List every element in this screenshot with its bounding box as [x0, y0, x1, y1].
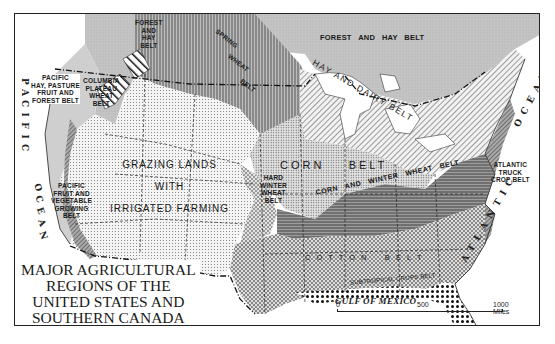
- label-line: FRUIT AND: [51, 190, 92, 198]
- label-pacific-ocean: P A C I F I C: [19, 76, 29, 153]
- ocean-letter: I: [19, 132, 30, 142]
- label-cotton-belt: C O T T O N B E L T: [305, 254, 423, 262]
- title-line: REGIONS OF THE: [21, 278, 196, 294]
- label-forest-hay-west: FOREST AND HAY BELT: [135, 19, 163, 49]
- label-grazing-lands: GRAZING LANDS WITH IRRIGATED FARMING: [110, 154, 229, 220]
- label-line: BELT: [83, 100, 120, 108]
- title-line: SOUTHERN CANADA: [21, 310, 196, 326]
- label-line: FOREST BELT: [31, 97, 80, 105]
- label-line: BELT: [51, 212, 92, 220]
- ocean-letter: F: [19, 121, 30, 131]
- label-line: GRAZING LANDS: [110, 154, 229, 176]
- label-line: WINTER: [260, 182, 287, 190]
- scale-tick: [502, 309, 503, 312]
- scale-label-500: 500: [417, 301, 429, 308]
- label-line: WHEAT: [260, 189, 287, 197]
- label-line: VEGETABLE: [51, 197, 92, 205]
- label-line: HARD: [260, 174, 287, 182]
- label-pacific-hay: PACIFIC HAY, PASTURE FRUIT AND FOREST BE…: [31, 74, 80, 104]
- ocean-letter: P: [19, 77, 30, 87]
- label-columbia-plateau: COLUMBIA PLATEAU WHEAT BELT: [83, 77, 120, 107]
- title-line: MAJOR AGRICULTURAL: [21, 262, 196, 278]
- label-line: PACIFIC: [31, 74, 80, 82]
- scale-line: [337, 311, 503, 312]
- ocean-letter: C: [19, 99, 30, 109]
- ocean-letter: I: [19, 110, 30, 120]
- label-line: WITH: [110, 176, 229, 198]
- map-frame: FOREST AND HAY BELT FOREST AND HAY BELT …: [14, 13, 540, 326]
- label-line: ATLANTIC: [491, 161, 530, 169]
- label-line: HAY, PASTURE: [31, 82, 80, 90]
- label-line: WHEAT: [83, 92, 120, 100]
- label-word: CORN: [280, 159, 324, 171]
- map-title: MAJOR AGRICULTURAL REGIONS OF THE UNITED…: [17, 260, 200, 326]
- label-word: BELT: [349, 159, 388, 171]
- label-forest-hay-east: FOREST AND HAY BELT: [320, 34, 424, 42]
- label-hard-winter-wheat: HARD WINTER WHEAT BELT: [260, 174, 287, 204]
- label-line: HAY: [135, 34, 163, 42]
- label-line: AND: [135, 27, 163, 35]
- label-line: PLATEAU: [83, 85, 120, 93]
- label-line: GROWING: [51, 205, 92, 213]
- label-corn-belt: CORN BELT: [280, 159, 387, 171]
- scale-bar: 0 500 1000 Miles: [337, 301, 507, 313]
- ocean-letter: C: [19, 143, 30, 153]
- label-line: PACIFIC: [51, 182, 92, 190]
- label-line: BELT: [260, 197, 287, 205]
- scale-tick: [337, 309, 338, 312]
- label-pacific-fruit-vegetable: PACIFIC FRUIT AND VEGETABLE GROWING BELT: [51, 182, 92, 220]
- scale-label-1000: 1000 Miles: [493, 301, 509, 315]
- scale-label-0: 0: [336, 301, 340, 308]
- label-line: FRUIT AND: [31, 89, 80, 97]
- label-line: BELT: [135, 42, 163, 50]
- label-line: COLUMBIA: [83, 77, 120, 85]
- ocean-letter: A: [19, 88, 30, 98]
- label-line: IRRIGATED FARMING: [110, 198, 229, 220]
- title-line: UNITED STATES AND: [21, 294, 196, 310]
- label-line: FOREST: [135, 19, 163, 27]
- label-pacific-ocean-2: O C E A N: [31, 186, 47, 241]
